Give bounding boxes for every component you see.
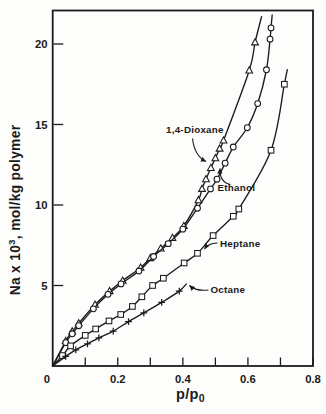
series-ethanol-marker (208, 186, 214, 192)
series-heptane-marker (236, 206, 242, 212)
series-ethanol-marker (69, 331, 75, 337)
scanned-figure-page: 0.20.40.60.805101520p/p0Na x 103, mol/kg… (0, 0, 326, 414)
y-tick-label: 15 (35, 119, 48, 131)
y-tick-label: 5 (41, 280, 47, 292)
series-heptane-marker (282, 81, 288, 87)
series-ethanol-marker (195, 205, 201, 211)
series-heptane-marker (268, 147, 274, 153)
series-ethanol-marker (118, 281, 124, 287)
series-ethanol-marker (180, 226, 186, 232)
series-heptane-marker (181, 260, 187, 266)
y-axis-title: Na x 103, mol/kg polymer (6, 124, 23, 295)
plot-frame (53, 11, 313, 367)
series-octane-curve (53, 284, 187, 366)
series-heptane-marker (118, 312, 124, 318)
series-1-4-dioxane-marker (195, 196, 202, 202)
series-heptane-marker (93, 326, 99, 332)
series-heptane-marker (230, 213, 236, 219)
x-tick-label: 0.6 (240, 373, 256, 385)
series-ethanol-marker (264, 67, 270, 73)
annotation-label-1-4-dioxane: 1,4-Dioxane (166, 124, 224, 135)
y-tick-label: 20 (35, 38, 48, 50)
x-tick-label: 0.2 (110, 373, 126, 385)
series-heptane-marker (82, 333, 88, 339)
y-tick-label: 10 (35, 199, 48, 211)
series-1-4-dioxane-marker (207, 164, 214, 170)
series-octane-marker (125, 318, 132, 325)
series-ethanol-marker (222, 160, 228, 166)
chart-canvas: 0.20.40.60.805101520p/p0Na x 103, mol/kg… (0, 0, 326, 414)
series-ethanol-marker (151, 254, 157, 260)
series-1-4-dioxane-marker (199, 185, 206, 191)
series-1-4-dioxane-marker (212, 155, 219, 161)
annotation-label-octane: Octane (211, 284, 246, 295)
annotation-arrow-octane (190, 286, 209, 291)
series-ethanol-marker (244, 125, 250, 131)
annotation-label-ethanol: Ethanol (218, 182, 256, 193)
x-tick-label: 0.4 (175, 373, 191, 385)
series-heptane-marker (130, 304, 136, 310)
series-ethanol-marker (230, 144, 236, 150)
series-heptane-marker (139, 294, 145, 300)
series-1-4-dioxane-marker (246, 67, 253, 73)
series-heptane-marker (195, 250, 201, 256)
series-octane-marker (96, 334, 103, 341)
series-heptane-marker (161, 275, 167, 281)
series-ethanol-marker (267, 36, 273, 42)
series-1-4-dioxane-marker (203, 176, 210, 182)
series-1-4-dioxane-marker (220, 137, 227, 143)
series-ethanol-marker (165, 241, 171, 247)
annotation-label-heptane: Heptane (220, 238, 261, 249)
annotation-arrow-1-4-dioxane (193, 139, 207, 162)
sorption-isotherm-figure: 0.20.40.60.805101520p/p0Na x 103, mol/kg… (0, 0, 326, 414)
series-ethanol-marker (105, 291, 111, 297)
series-heptane-marker (210, 233, 216, 239)
series-ethanol-marker (76, 323, 82, 329)
x-axis-title: p/p0 (176, 386, 205, 404)
series-ethanol-marker (90, 306, 96, 312)
series-heptane-curve (53, 70, 288, 366)
series-ethanol-marker (268, 25, 274, 31)
x-tick-label-zero: 0 (44, 373, 50, 385)
series-1-4-dioxane-marker (252, 39, 259, 45)
x-tick-label: 0.8 (305, 373, 321, 385)
series-octane-marker (158, 299, 165, 306)
series-octane-marker (110, 328, 117, 335)
series-heptane-marker (68, 343, 74, 349)
series-octane-marker (84, 340, 91, 347)
series-octane-marker (140, 309, 147, 316)
series-ethanol-marker (255, 101, 261, 107)
series-ethanol-marker (136, 268, 142, 274)
series-heptane-marker (106, 318, 112, 324)
series-heptane-marker (150, 283, 156, 289)
